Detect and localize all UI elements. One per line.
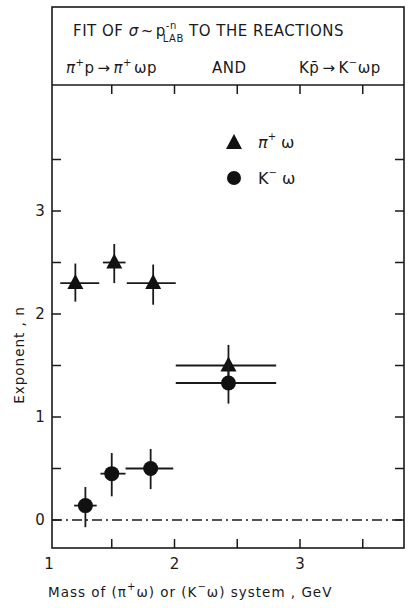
x-tick-label: 1 — [44, 555, 54, 573]
triangle-marker-icon — [106, 254, 122, 269]
data-point-pi-omega — [103, 244, 126, 283]
y-tick-label: 2 — [35, 305, 45, 323]
header-line-1: FIT OF σ~p-nLAB TO THE REACTIONS — [73, 20, 344, 44]
reaction-k-minus: Kp̄→K−ωp — [299, 57, 381, 77]
y-tick-label: 0 — [35, 511, 45, 529]
y-tick-label: 1 — [35, 408, 45, 426]
axis-ticks — [52, 85, 404, 548]
data-point-pi-omega — [127, 265, 176, 305]
y-tick-label: 3 — [35, 202, 45, 220]
y-axis-title: Exponent , n — [11, 306, 27, 404]
triangle-marker-icon — [145, 274, 161, 289]
circle-marker-icon — [227, 171, 241, 185]
triangle-marker-icon — [67, 274, 83, 289]
circle-marker-icon — [143, 461, 158, 476]
circle-marker-icon — [221, 376, 236, 391]
x-axis-title: Mass of (π+ω) or (K−ω) system , GeV — [48, 581, 332, 600]
legend-item-k-omega: K− ω — [227, 167, 295, 188]
circle-marker-icon — [104, 466, 119, 481]
legend-label-k-omega: K− ω — [258, 167, 295, 188]
legend-label-pi-omega: π+ ω — [258, 131, 295, 152]
x-tick-label: 3 — [295, 555, 305, 573]
figure-frame — [52, 7, 404, 548]
chart: FIT OF σ~p-nLAB TO THE REACTIONS π+p→π+ω… — [0, 0, 416, 608]
legend-item-pi-omega: π+ ω — [226, 131, 295, 152]
reaction-pi-plus: π+p→π+ωp — [66, 57, 157, 77]
x-tick-label: 2 — [170, 555, 180, 573]
triangle-marker-icon — [226, 134, 242, 149]
data-point-k-omega — [74, 487, 97, 527]
circle-marker-icon — [78, 498, 93, 513]
data-point-k-omega — [126, 449, 174, 489]
data-points — [60, 244, 276, 527]
legend: π+ ω K− ω — [226, 131, 295, 188]
axis-tick-labels: 1230123 — [35, 202, 305, 573]
figure-header: FIT OF σ~p-nLAB TO THE REACTIONS π+p→π+ω… — [66, 20, 381, 77]
data-point-pi-omega — [60, 264, 99, 302]
data-point-k-omega — [100, 453, 125, 496]
and-label: AND — [212, 59, 247, 77]
